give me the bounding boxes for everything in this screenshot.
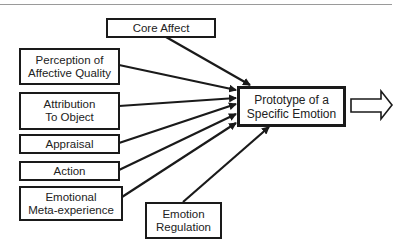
node-regulation: Emotion Regulation (145, 202, 222, 239)
edge-perception (119, 65, 236, 90)
node-appraisal: Appraisal (19, 134, 120, 154)
output-hollow-arrow-icon (351, 91, 392, 119)
node-meta-experience: Emotional Meta-experience (19, 186, 123, 221)
node-label: Emotional Meta-experience (28, 191, 114, 217)
node-label: Perception of Affective Quality (28, 54, 111, 80)
node-label: Emotion Regulation (156, 208, 211, 234)
node-action: Action (19, 161, 120, 181)
node-label: Attribution To Object (44, 98, 96, 124)
node-core-affect: Core Affect (106, 18, 216, 38)
node-attribution: Attribution To Object (19, 92, 120, 130)
node-label: Action (54, 165, 86, 178)
node-perception: Perception of Affective Quality (19, 48, 120, 85)
edge-regulation (183, 127, 269, 202)
node-label: Prototype of a Specific Emotion (247, 93, 336, 121)
node-label: Core Affect (133, 22, 190, 35)
edge-attribution (119, 98, 236, 106)
node-label: Appraisal (46, 138, 94, 151)
node-prototype: Prototype of a Specific Emotion (237, 86, 346, 127)
